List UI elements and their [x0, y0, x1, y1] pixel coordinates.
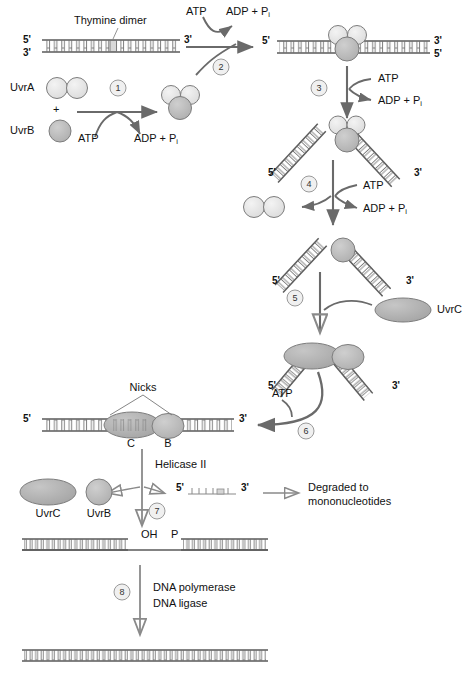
uvrA-dimer-free	[47, 78, 88, 99]
step-number-3: 3	[316, 83, 321, 93]
dna-duplex-gapped-left	[22, 539, 128, 550]
step-number-1: 1	[115, 83, 120, 93]
label-5prime-duplex-bound-left: 5'	[262, 35, 270, 46]
step-number-5: 5	[292, 293, 297, 303]
panel-gapped-duplex: OH P 8 DNA polymerase DNA ligase	[22, 528, 268, 634]
label-b-subunit: B	[164, 437, 171, 449]
label-dna-ligase: DNA ligase	[153, 597, 207, 609]
label-3prime-bent2-right: 3'	[406, 275, 414, 286]
panel-complex-on-duplex: 5' 3' 5' ATP ADP + Pi 3	[262, 26, 442, 119]
uvrC-free	[375, 298, 431, 322]
panel-bent-dna-with-uvrB: 5' 3' UvrC 5	[272, 238, 462, 332]
uvrB-on-nicked-dna	[152, 414, 184, 439]
step-marker-2: 2	[213, 59, 229, 75]
label-uvrA: UvrA	[10, 81, 35, 93]
label-degraded-line1: Degraded to	[308, 481, 369, 493]
panel-bent-dna-with-uvrBC: 5' 3' ATP 6	[258, 343, 400, 439]
uvrA-dimer-released	[244, 197, 285, 218]
bent-dna-arm-left-1	[270, 124, 326, 183]
bent-dna-arm-left-2	[275, 238, 327, 292]
step-number-4: 4	[306, 179, 311, 189]
label-nicks: Nicks	[130, 381, 157, 393]
label-5prime-bent1-left: 5'	[268, 167, 276, 178]
label-atp-step2: ATP	[186, 5, 207, 17]
panel-repaired-duplex	[22, 650, 268, 661]
label-atp-step1: ATP	[78, 132, 99, 144]
label-oh: OH	[141, 528, 158, 540]
panel-thymine-dimer-duplex: 5' 3' 3' Thymine dimer	[23, 14, 192, 58]
panel-step-7-helicase: Helicase II UvrC UvrB 7	[20, 449, 392, 525]
label-degraded-line2: mononucleotides	[308, 495, 392, 507]
uvrC-released	[20, 479, 76, 505]
step-marker-6: 6	[298, 423, 314, 439]
step-number-6: 6	[303, 426, 308, 436]
panel-step-2-binding: ATP ADP + Pi 2	[186, 5, 270, 75]
label-uvrC-free: UvrC	[437, 303, 462, 315]
label-5prime-top-left: 5'	[23, 34, 31, 45]
step-number-7: 7	[154, 506, 159, 516]
label-atp-step6: ATP	[272, 387, 293, 399]
label-5prime-nicked-left: 5'	[23, 413, 31, 424]
uvrB-monomer-free	[49, 120, 71, 142]
step-marker-7: 7	[149, 503, 165, 519]
label-3prime-bottom-left: 3'	[23, 47, 31, 58]
step-number-2: 2	[218, 62, 223, 72]
uvrB-bound	[332, 345, 364, 370]
label-3prime-bent1-right: 3'	[414, 167, 422, 178]
uvrB-on-bent-dna	[331, 238, 355, 262]
label-uvrB-released: UvrB	[87, 507, 111, 519]
label-3prime-bent3-right: 3'	[392, 380, 400, 391]
label-helicase-II: Helicase II	[155, 458, 206, 470]
label-3prime-top-right: 3'	[184, 34, 192, 45]
label-adp-pi-step2: ADP + Pi	[226, 5, 270, 19]
step-number-8: 8	[119, 587, 124, 597]
label-adp-pi-step4: ADP + Pi	[363, 202, 407, 216]
label-uvrC-released: UvrC	[35, 507, 60, 519]
figure-canvas: 5' 3' 3' Thymine dimer UvrA + UvrB ATP A…	[0, 0, 463, 675]
dna-duplex-gapped-right	[181, 539, 268, 550]
uvrA2B-bound-complex	[329, 26, 367, 62]
uvrA2B-complex	[162, 86, 200, 120]
nucleotide-excision-repair-diagram: 5' 3' 3' Thymine dimer UvrA + UvrB ATP A…	[0, 0, 463, 675]
thymine-dimer-lesion	[110, 41, 117, 52]
dna-duplex-top	[42, 40, 180, 52]
label-5prime-bent2-left: 5'	[272, 275, 280, 286]
label-3prime-nicked-right: 3'	[239, 413, 247, 424]
step-marker-3: 3	[311, 80, 327, 96]
label-adp-pi-step1: ADP + Pi	[134, 132, 178, 146]
label-5prime-duplex-bound-right: 5'	[434, 48, 442, 59]
excised-thymine-dimer	[217, 489, 224, 494]
label-5prime-fragment: 5'	[176, 482, 184, 493]
label-c-subunit: C	[127, 437, 135, 449]
label-thymine-dimer: Thymine dimer	[74, 14, 147, 26]
label-atp-step4: ATP	[363, 179, 384, 191]
step-marker-4: 4	[301, 176, 317, 192]
label-3prime-duplex-bound-right: 3'	[434, 35, 442, 46]
step-marker-5: 5	[287, 290, 303, 306]
label-p: P	[171, 528, 178, 540]
uvrB-released	[86, 479, 112, 505]
label-3prime-fragment: 3'	[241, 482, 249, 493]
panel-nicked-duplex: 5' 3' C B Nicks	[23, 381, 247, 449]
step-marker-1: 1	[110, 80, 126, 96]
label-uvrB: UvrB	[10, 124, 34, 136]
panel-uvrA-uvrB-assembly: UvrA + UvrB ATP ADP + Pi 1	[10, 78, 200, 146]
label-adp-pi-step3: ADP + Pi	[378, 94, 422, 108]
step-marker-8: 8	[114, 584, 130, 600]
excised-fragment	[188, 488, 236, 494]
panel-bent-dna-with-uvrA2B: 5' 3' ATP ADP + Pi 4	[244, 116, 422, 225]
label-atp-step3: ATP	[378, 72, 399, 84]
label-dna-polymerase: DNA polymerase	[153, 581, 236, 593]
label-plus-sign: +	[53, 103, 59, 115]
